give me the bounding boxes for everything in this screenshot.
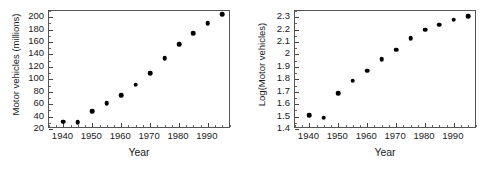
x-tick-label: 1990 (442, 131, 463, 141)
data-point (177, 42, 182, 47)
y-minor-tick (295, 23, 297, 24)
x-tick-label: 1980 (167, 131, 188, 141)
y-tick-label: 2.1 (277, 36, 290, 46)
data-point (191, 31, 196, 36)
y-tick-label: 1.9 (277, 61, 290, 71)
x-minor-tick (71, 125, 72, 127)
y-major-tick (49, 117, 53, 118)
y-tick-label: 1.6 (277, 98, 290, 108)
x-tick-label: 1970 (385, 131, 406, 141)
y-major-tick (49, 67, 53, 68)
x-minor-tick (418, 125, 419, 127)
x-minor-tick (165, 125, 166, 127)
data-point (423, 27, 428, 32)
x-minor-tick (439, 125, 440, 127)
y-major-tick (295, 92, 299, 93)
y-minor-tick (295, 86, 297, 87)
y-minor-tick (49, 36, 51, 37)
y-major-tick (49, 17, 53, 18)
x-major-tick (121, 123, 122, 127)
x-tick-label: 1950 (327, 131, 348, 141)
x-tick-label: 1960 (110, 131, 131, 141)
x-minor-tick (324, 125, 325, 127)
data-point (90, 109, 95, 114)
x-minor-tick (447, 125, 448, 127)
y-major-tick (295, 117, 299, 118)
x-minor-tick (100, 125, 101, 127)
y-minor-tick (49, 61, 51, 62)
data-point (162, 56, 167, 61)
chart-panel-log-motor-vehicles: Log(Motor vehicles) 1.41.51.61.71.81.922… (246, 0, 491, 171)
x-minor-tick (230, 125, 231, 127)
y-tick-label: 1.5 (277, 111, 290, 121)
y-tick-label: 120 (28, 61, 44, 71)
x-minor-tick (222, 125, 223, 127)
x-minor-tick (317, 125, 318, 127)
x-minor-tick (107, 125, 108, 127)
x-axis-title-left: Year (48, 146, 230, 158)
x-minor-tick (461, 125, 462, 127)
x-tick-label: 1940 (52, 131, 73, 141)
y-tick-label: 2.3 (277, 11, 290, 21)
x-minor-tick (186, 125, 187, 127)
y-major-tick (295, 30, 299, 31)
data-point (379, 57, 384, 62)
y-minor-tick (295, 110, 297, 111)
x-tick-label: 1940 (298, 131, 319, 141)
x-minor-tick (476, 125, 477, 127)
data-point (61, 119, 66, 124)
data-point (394, 47, 399, 52)
x-minor-tick (331, 125, 332, 127)
x-major-tick (208, 123, 209, 127)
y-tick-label: 1.7 (277, 86, 290, 96)
data-point (350, 78, 355, 83)
data-point (452, 17, 457, 22)
y-minor-tick (295, 73, 297, 74)
x-minor-tick (56, 125, 57, 127)
chart-panel-motor-vehicles: Motor vehicles (millions) 20406080100120… (0, 0, 245, 171)
x-minor-tick (295, 125, 296, 127)
x-minor-tick (201, 125, 202, 127)
y-tick-label: 100 (28, 74, 44, 84)
x-minor-tick (302, 125, 303, 127)
x-minor-tick (382, 125, 383, 127)
y-minor-tick (49, 86, 51, 87)
y-minor-tick (49, 98, 51, 99)
x-minor-tick (389, 125, 390, 127)
x-minor-tick (193, 125, 194, 127)
x-major-tick (92, 123, 93, 127)
x-minor-tick (411, 125, 412, 127)
y-major-tick (49, 92, 53, 93)
data-point (408, 36, 413, 41)
y-axis-tick-labels-right: 1.41.51.61.71.81.922.12.22.3 (268, 10, 292, 128)
y-minor-tick (295, 61, 297, 62)
x-major-tick (179, 123, 180, 127)
y-tick-label: 2.2 (277, 24, 290, 34)
x-major-tick (338, 123, 339, 127)
data-point (104, 101, 109, 106)
x-minor-tick (468, 125, 469, 127)
x-tick-label: 1990 (196, 131, 217, 141)
y-major-tick (295, 54, 299, 55)
data-point (148, 71, 153, 76)
x-axis-title-right: Year (294, 146, 476, 158)
x-major-tick (396, 123, 397, 127)
x-major-tick (150, 123, 151, 127)
x-axis-tick-labels-right: 194019501960197019801990 (294, 131, 476, 144)
x-major-tick (425, 123, 426, 127)
y-minor-tick (295, 11, 297, 12)
x-minor-tick (85, 125, 86, 127)
y-axis-tick-labels-left: 20406080100120140160180200 (22, 10, 46, 128)
x-minor-tick (114, 125, 115, 127)
y-minor-tick (295, 98, 297, 99)
x-major-tick (309, 123, 310, 127)
y-tick-label: 180 (28, 24, 44, 34)
plot-area-left (48, 10, 230, 128)
y-minor-tick (49, 110, 51, 111)
x-minor-tick (172, 125, 173, 127)
y-major-tick (49, 54, 53, 55)
y-major-tick (295, 17, 299, 18)
x-major-tick (454, 123, 455, 127)
y-minor-tick (49, 11, 51, 12)
y-minor-tick (49, 73, 51, 74)
